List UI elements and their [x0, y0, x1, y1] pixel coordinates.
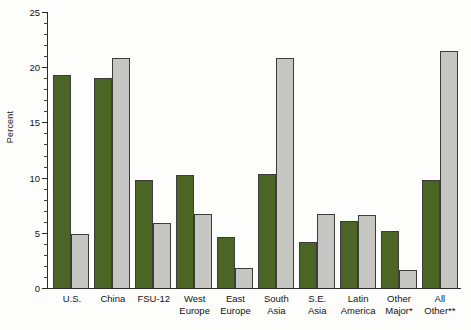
bar-group [258, 12, 294, 288]
bar[interactable] [340, 221, 358, 288]
x-axis-category-label: Other Major* [380, 293, 418, 329]
x-axis-category-label: West Europe [176, 293, 214, 329]
bar-group [381, 12, 417, 288]
bar[interactable] [94, 78, 112, 288]
x-axis-category-label: East Europe [217, 293, 255, 329]
x-axis-category-label: U.S. [53, 293, 91, 329]
bar[interactable] [358, 215, 376, 288]
y-tick-label: 20 [29, 62, 40, 73]
bar[interactable] [317, 214, 335, 288]
bar[interactable] [53, 75, 71, 288]
bar-group [217, 12, 253, 288]
bar[interactable] [71, 234, 89, 288]
bar[interactable] [176, 175, 194, 288]
y-tick-label: 0 [35, 283, 40, 294]
x-axis-category-label: S.E. Asia [298, 293, 336, 329]
y-tick-label: 25 [29, 7, 40, 18]
bar[interactable] [440, 51, 458, 288]
x-axis-category-labels: U.S.ChinaFSU-12West EuropeEast EuropeSou… [48, 293, 462, 329]
bar[interactable] [258, 174, 276, 288]
x-axis-category-label: South Asia [257, 293, 295, 329]
bar[interactable] [235, 268, 253, 288]
bar-group [176, 12, 212, 288]
y-axis-label: Percent [5, 97, 15, 157]
bar-series-container [48, 12, 461, 288]
bar-group [340, 12, 376, 288]
x-axis-category-label: China [94, 293, 132, 329]
bar[interactable] [112, 58, 130, 288]
bar-chart: Percent 0510152025 U.S.ChinaFSU-12West E… [0, 0, 471, 330]
bar-group [135, 12, 171, 288]
bar-group [94, 12, 130, 288]
plot-area: 0510152025 [47, 12, 461, 288]
bar[interactable] [135, 180, 153, 288]
x-axis-category-label: FSU-12 [135, 293, 173, 329]
bar[interactable] [381, 231, 399, 288]
y-tick-label: 10 [29, 172, 40, 183]
bar[interactable] [399, 270, 417, 288]
x-axis-category-label: Latin America [339, 293, 377, 329]
y-tick-label: 5 [35, 227, 40, 238]
bar-group [422, 12, 458, 288]
bar[interactable] [217, 237, 235, 288]
bar[interactable] [153, 223, 171, 288]
bar[interactable] [276, 58, 294, 288]
bar[interactable] [422, 180, 440, 288]
x-axis-category-label: All Other** [421, 293, 459, 329]
y-tick-label: 15 [29, 117, 40, 128]
bar-group [53, 12, 89, 288]
bar[interactable] [299, 242, 317, 288]
x-axis-line [47, 288, 461, 289]
y-tick-major [42, 288, 48, 289]
bar[interactable] [194, 214, 212, 288]
bar-group [299, 12, 335, 288]
